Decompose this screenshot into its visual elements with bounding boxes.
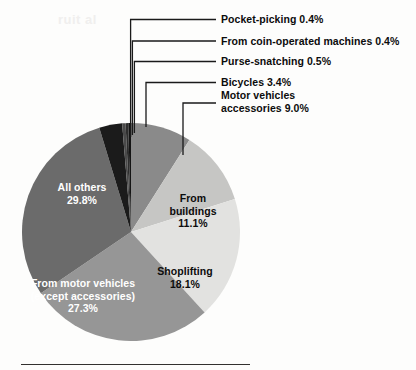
slice-label-from-buildings-line3: 11.1% — [158, 217, 228, 230]
slice-label-all-others-line2: 29.8% — [32, 194, 132, 207]
callout-label-motor-accessories-line1: Motor vehicles — [221, 89, 309, 102]
bottom-rule-divider — [21, 364, 250, 365]
slice-label-from-buildings: From buildings 11.1% — [158, 192, 228, 230]
callout-label-coin-operated: From coin-operated machines 0.4% — [221, 35, 399, 48]
callout-label-pocket-picking: Pocket-picking 0.4% — [221, 13, 323, 26]
figure-page: ruit al Pocket-picking 0.4% From coin-op… — [0, 0, 416, 370]
slice-label-shoplifting-line1: Shoplifting — [144, 265, 226, 278]
bleed-through-ghost-text: ruit al — [58, 12, 97, 27]
callout-label-purse-snatching: Purse-snatching 0.5% — [221, 55, 331, 68]
slice-label-all-others: All others 29.8% — [32, 181, 132, 206]
callout-label-bicycles: Bicycles 3.4% — [221, 76, 291, 89]
slice-label-shoplifting-line2: 18.1% — [144, 278, 226, 291]
slice-label-from-motor-vehicles-line1: From motor vehicles — [19, 277, 147, 290]
slice-label-from-buildings-line2: buildings — [158, 205, 228, 218]
slice-label-all-others-line1: All others — [32, 181, 132, 194]
leader-line-bicycles — [146, 83, 216, 128]
slice-label-from-buildings-line1: From — [158, 192, 228, 205]
slice-label-shoplifting: Shoplifting 18.1% — [144, 265, 226, 290]
slice-label-from-motor-vehicles-line2: (except accessories) — [19, 290, 147, 303]
slice-label-from-motor-vehicles: From motor vehicles (except accessories)… — [19, 277, 147, 315]
slice-label-from-motor-vehicles-line3: 27.3% — [19, 302, 147, 315]
callout-label-motor-accessories: Motor vehicles accessories 9.0% — [221, 89, 309, 114]
leader-line-pocket-picking — [131, 20, 216, 138]
callout-label-motor-accessories-line2: accessories 9.0% — [221, 102, 309, 115]
leader-line-coin-operated — [132, 41, 216, 135]
